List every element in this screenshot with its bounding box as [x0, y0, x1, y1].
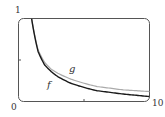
origin-label: 0 — [11, 102, 17, 112]
curve-label-g: g — [69, 63, 75, 74]
plot-frame — [19, 19, 150, 102]
x-right-label: 10 — [152, 98, 164, 108]
y-top-label: 1 — [15, 5, 21, 15]
curve-label-f: f — [46, 79, 53, 90]
chart: 1 0 10 f g — [0, 0, 165, 117]
